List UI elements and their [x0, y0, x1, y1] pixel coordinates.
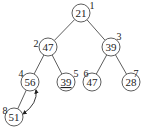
tree-edge	[18, 90, 27, 109]
node-value: 47	[43, 41, 55, 53]
heap-tree-diagram: 211472393564395476287518	[0, 0, 141, 134]
tree-edge	[115, 55, 126, 74]
tree-edge	[87, 20, 105, 41]
node-value: 51	[9, 111, 20, 123]
tree-node: 476	[83, 68, 101, 91]
tree-edges	[18, 19, 127, 108]
node-index-label: 5	[74, 68, 79, 79]
tree-edge	[52, 55, 62, 74]
tree-edge	[96, 55, 106, 74]
node-index-label: 2	[34, 38, 39, 49]
node-index-label: 4	[19, 68, 24, 79]
node-value: 39	[106, 41, 118, 53]
node-index-label: 8	[3, 105, 8, 116]
tree-edge	[34, 55, 44, 74]
node-index-label: 3	[117, 31, 122, 42]
node-value: 56	[25, 76, 37, 88]
tree-node: 393	[102, 31, 122, 56]
tree-nodes: 211472393564395476287518	[3, 0, 141, 126]
tree-node: 518	[3, 105, 24, 126]
tree-node: 211	[72, 0, 95, 22]
node-value: 39	[61, 76, 73, 88]
node-index-label: 7	[134, 68, 139, 79]
node-value: 21	[76, 7, 87, 19]
tree-node: 564	[19, 68, 40, 91]
tree-edge	[54, 19, 74, 40]
node-index-label: 6	[84, 68, 89, 79]
node-index-label: 1	[90, 0, 95, 11]
tree-node: 472	[34, 38, 58, 56]
